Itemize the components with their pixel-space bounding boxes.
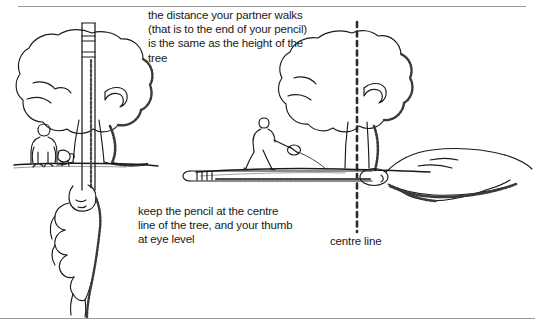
- trunk-shadow-left: [110, 126, 147, 165]
- hand-gripping-pencil: [50, 185, 100, 317]
- figure-canvas: the distance your partner walks (that is…: [0, 0, 535, 328]
- thumb-tip: [360, 169, 388, 186]
- canopy-shadow-left: [118, 59, 152, 125]
- vertical-pencil: [82, 23, 95, 190]
- ground-line-left-2: [14, 166, 126, 168]
- ground-line-right-2: [200, 173, 345, 176]
- canopy-shadow-right: [384, 54, 412, 120]
- caption-distance-equals-height: the distance your partner walks (that is…: [148, 8, 328, 65]
- trunk-shadow-right: [374, 126, 378, 170]
- left-scene: [14, 23, 158, 317]
- caption-keep-pencil-at-centre-line: keep the pencil at the centre line of th…: [138, 204, 318, 247]
- hand-shadow-left: [87, 198, 100, 317]
- partner-marker: [288, 145, 301, 155]
- marker-shadow: [298, 152, 326, 169]
- walking-partner: [244, 118, 291, 170]
- tree-trunk-left: [57, 120, 122, 165]
- label-centre-line: centre line: [330, 234, 440, 248]
- tree-canopy-left: [16, 30, 152, 134]
- hand-holding-pencil-sideways: [360, 149, 532, 201]
- horizontal-pencil: [183, 171, 372, 181]
